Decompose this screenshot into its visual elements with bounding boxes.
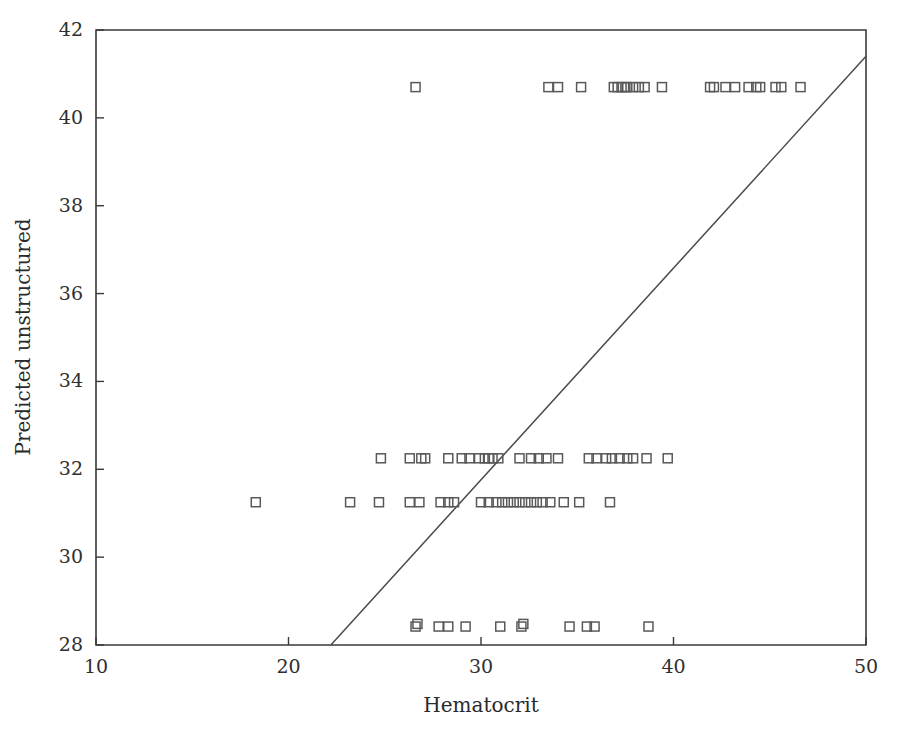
x-axis-title: Hematocrit	[423, 693, 538, 717]
data-point-marker	[498, 498, 507, 507]
data-point-marker	[521, 498, 530, 507]
y-axis-tick-labels: 2830323436384042	[59, 18, 83, 655]
data-point-marker	[503, 498, 512, 507]
data-point-marker	[444, 454, 453, 463]
data-point-marker	[376, 454, 385, 463]
data-point-marker	[663, 454, 672, 463]
y-tick-label: 42	[59, 18, 83, 40]
data-point-marker	[527, 498, 536, 507]
y-tick-label: 28	[59, 633, 83, 655]
data-point-marker	[644, 622, 653, 631]
data-point-marker	[405, 454, 414, 463]
data-point-marker	[575, 498, 584, 507]
data-point-marker	[461, 622, 470, 631]
y-axis-title: Predicted unstructured	[11, 218, 35, 455]
data-point-marker	[509, 498, 518, 507]
x-tick-label: 30	[469, 655, 493, 677]
y-tick-label: 40	[59, 106, 83, 128]
data-point-marker	[444, 622, 453, 631]
data-point-marker	[642, 454, 651, 463]
data-point-marker	[605, 498, 614, 507]
data-point-marker	[634, 83, 643, 92]
data-point-marker	[559, 498, 568, 507]
data-point-marker	[251, 498, 260, 507]
data-point-marker	[515, 454, 524, 463]
data-point-marker	[415, 498, 424, 507]
reference-line	[331, 56, 866, 645]
reference-line-segment	[331, 56, 866, 645]
data-point-marker	[771, 83, 780, 92]
data-point-marker	[496, 622, 505, 631]
plot-frame	[96, 30, 866, 645]
data-point-marker	[405, 498, 414, 507]
x-tick-label: 50	[854, 655, 878, 677]
data-point-marker	[777, 83, 786, 92]
x-axis-ticks	[96, 637, 866, 645]
plot-canvas: 2830323436384042 1020304050 Hematocrit P…	[0, 0, 900, 735]
data-point-marker	[554, 83, 563, 92]
x-tick-label: 10	[84, 655, 108, 677]
data-point-marker	[475, 454, 484, 463]
data-point-marker	[374, 498, 383, 507]
data-point-marker	[565, 622, 574, 631]
data-point-marker	[554, 454, 563, 463]
y-axis-ticks	[96, 30, 104, 645]
data-point-marker	[629, 454, 638, 463]
x-axis-tick-labels: 1020304050	[84, 655, 878, 677]
data-point-marker	[411, 83, 420, 92]
data-point-marker	[640, 83, 649, 92]
data-point-marker	[515, 498, 524, 507]
y-tick-label: 34	[59, 369, 83, 391]
data-point-marker	[346, 498, 355, 507]
data-point-marker	[602, 454, 611, 463]
data-point-marker	[544, 83, 553, 92]
data-point-marker	[731, 83, 740, 92]
y-tick-label: 30	[59, 545, 83, 567]
scatter-plot-figure: 2830323436384042 1020304050 Hematocrit P…	[0, 0, 900, 735]
x-tick-label: 20	[276, 655, 300, 677]
y-tick-label: 32	[59, 457, 83, 479]
data-point-marker	[721, 83, 730, 92]
data-point-marker	[657, 83, 666, 92]
data-point-marker	[434, 622, 443, 631]
data-point-marker	[577, 83, 586, 92]
axis-frame	[96, 30, 866, 645]
data-point-markers	[251, 83, 805, 631]
x-tick-label: 40	[661, 655, 685, 677]
data-point-marker	[796, 83, 805, 92]
y-tick-label: 36	[59, 282, 83, 304]
y-tick-label: 38	[59, 194, 83, 216]
data-point-marker	[532, 498, 541, 507]
